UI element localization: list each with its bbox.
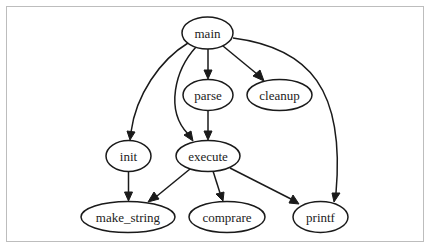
node-printf-label: printf	[306, 210, 336, 225]
node-printf: printf	[293, 202, 348, 233]
node-cleanup: cleanup	[247, 80, 312, 111]
edge-execute-make_string	[148, 169, 190, 202]
edge-main-parse	[204, 49, 212, 79]
node-comprare: comprare	[189, 202, 265, 233]
edge-init-make_string	[125, 172, 133, 202]
node-init-label: init	[120, 149, 138, 164]
node-init: init	[106, 141, 151, 172]
node-cleanup-label: cleanup	[259, 88, 299, 103]
node-parse-label: parse	[194, 88, 222, 103]
node-main: main	[182, 17, 233, 49]
node-parse: parse	[183, 80, 233, 111]
edge-main-cleanup	[223, 46, 264, 81]
edge-execute-printf	[230, 168, 299, 204]
node-execute: execute	[176, 141, 240, 172]
edge-main-init	[127, 43, 188, 140]
edge-execute-comprare	[213, 171, 224, 201]
node-execute-label: execute	[188, 149, 228, 164]
node-main-label: main	[195, 26, 221, 41]
node-make_string: make_string	[81, 202, 175, 233]
node-make_string-label: make_string	[96, 210, 161, 225]
edge-parse-execute	[204, 111, 212, 140]
node-comprare-label: comprare	[202, 210, 251, 225]
call-graph: main parse cleanup init execute make_str…	[0, 0, 431, 249]
